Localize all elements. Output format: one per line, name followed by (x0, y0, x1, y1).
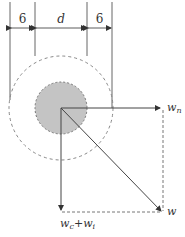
tangential-vector-label: wc+wi (60, 217, 96, 231)
dimension-left-label: 6 (19, 12, 27, 26)
dimension-middle-label: d (57, 12, 65, 26)
dimension-right-label: 6 (96, 12, 104, 26)
resultant-vector-label: w (167, 205, 177, 218)
vector-diagram: 6 d 6 wn w wc+wi (0, 0, 185, 237)
normal-vector-label: wn (167, 101, 182, 115)
resultant-vector (61, 108, 161, 211)
